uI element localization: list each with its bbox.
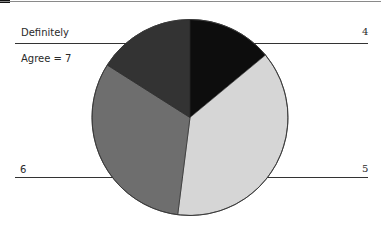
label-6: 6 bbox=[20, 163, 26, 176]
label-7-line1: Definitely bbox=[21, 26, 71, 39]
label-definitely-agree-7: Definitely Agree = 7 bbox=[21, 13, 71, 78]
label-5: 5 bbox=[362, 162, 368, 175]
pie-chart-figure: Definitely Agree = 7 4 6 5 bbox=[0, 0, 381, 228]
label-4: 4 bbox=[362, 25, 368, 38]
label-7-line2: Agree = 7 bbox=[21, 52, 71, 65]
